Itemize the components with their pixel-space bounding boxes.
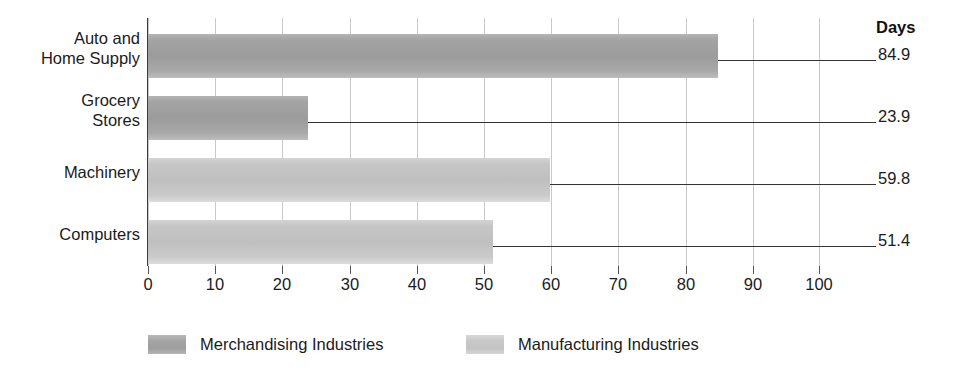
legend-label: Manufacturing Industries bbox=[518, 335, 699, 354]
bar-computers bbox=[148, 220, 493, 264]
value-column: Days 84.9 23.9 59.8 51.4 bbox=[876, 18, 954, 266]
value-label-machinery: 59.8 bbox=[878, 169, 910, 188]
value-label-computers: 51.4 bbox=[878, 231, 910, 250]
category-label-auto-and-home-supply: Auto and Home Supply bbox=[2, 28, 140, 68]
x-tick bbox=[686, 266, 687, 274]
legend-entry-merchandising-industries: Merchandising Industries bbox=[148, 332, 383, 356]
category-label-machinery: Machinery bbox=[2, 162, 140, 182]
x-tick bbox=[148, 266, 149, 274]
x-axis: 0 10 20 30 40 50 60 70 80 90 100 bbox=[148, 266, 820, 306]
bar-auto-and-home-supply bbox=[148, 34, 718, 78]
x-tick bbox=[282, 266, 283, 274]
x-tick bbox=[551, 266, 552, 274]
x-tick bbox=[417, 266, 418, 274]
x-tick-label: 70 bbox=[609, 275, 627, 294]
category-label-line: Grocery bbox=[2, 90, 140, 110]
x-tick-label: 50 bbox=[475, 275, 493, 294]
bar-chart: Auto and Home Supply Grocery Stores Mach… bbox=[0, 0, 957, 382]
x-tick-label: 40 bbox=[408, 275, 426, 294]
x-tick bbox=[819, 266, 820, 274]
x-tick bbox=[753, 266, 754, 274]
x-tick-label: 100 bbox=[805, 275, 833, 294]
category-label-line: Computers bbox=[2, 224, 140, 244]
category-label-computers: Computers bbox=[2, 224, 140, 244]
leader-line-auto-and-home-supply bbox=[718, 60, 876, 61]
plot-area bbox=[148, 18, 820, 266]
category-label-line: Machinery bbox=[2, 162, 140, 182]
x-tick-label: 0 bbox=[143, 275, 152, 294]
x-tick-label: 60 bbox=[542, 275, 560, 294]
gridline bbox=[819, 18, 820, 266]
x-tick-label: 30 bbox=[341, 275, 359, 294]
leader-line-machinery bbox=[550, 184, 876, 185]
legend-entry-manufacturing-industries: Manufacturing Industries bbox=[466, 332, 699, 356]
bar-grocery-stores bbox=[148, 96, 308, 140]
x-tick bbox=[350, 266, 351, 274]
legend-label: Merchandising Industries bbox=[200, 335, 383, 354]
days-header: Days bbox=[876, 18, 915, 37]
cropped-caption bbox=[160, 374, 680, 382]
value-label-grocery-stores: 23.9 bbox=[878, 107, 910, 126]
x-tick bbox=[215, 266, 216, 274]
category-label-line: Stores bbox=[2, 110, 140, 130]
bar-machinery bbox=[148, 158, 550, 202]
x-tick bbox=[484, 266, 485, 274]
x-tick bbox=[618, 266, 619, 274]
x-tick-label: 80 bbox=[677, 275, 695, 294]
x-tick-label: 20 bbox=[273, 275, 291, 294]
leader-line-computers bbox=[493, 246, 876, 247]
category-axis-labels: Auto and Home Supply Grocery Stores Mach… bbox=[0, 18, 140, 266]
leader-line-grocery-stores bbox=[308, 122, 876, 123]
legend-swatch-icon bbox=[466, 335, 504, 354]
legend-swatch-icon bbox=[148, 335, 186, 354]
value-label-auto-and-home-supply: 84.9 bbox=[878, 45, 910, 64]
x-tick-label: 90 bbox=[744, 275, 762, 294]
gridline bbox=[753, 18, 754, 266]
category-label-line: Home Supply bbox=[2, 48, 140, 68]
category-label-line: Auto and bbox=[2, 28, 140, 48]
category-label-grocery-stores: Grocery Stores bbox=[2, 90, 140, 130]
x-tick-label: 10 bbox=[206, 275, 224, 294]
